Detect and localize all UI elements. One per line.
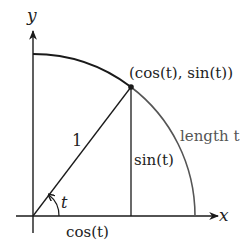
x-axis-label: x: [219, 205, 229, 225]
radius-label: 1: [72, 131, 82, 150]
point-marker: [128, 84, 134, 90]
cos-label: cos(t): [66, 223, 109, 241]
arc-length-label: length t: [180, 127, 239, 145]
point-label: (cos(t), sin(t)): [129, 64, 233, 82]
unit-circle-diagram: y x 1 t cos(t) sin(t) (cos(t), sin(t)) l…: [0, 0, 247, 246]
upper-arc: [33, 54, 131, 87]
sin-label: sin(t): [134, 151, 174, 169]
angle-label: t: [61, 193, 68, 212]
angle-arc: [49, 195, 59, 216]
y-axis-label: y: [26, 5, 37, 25]
radius-line: [33, 87, 131, 216]
